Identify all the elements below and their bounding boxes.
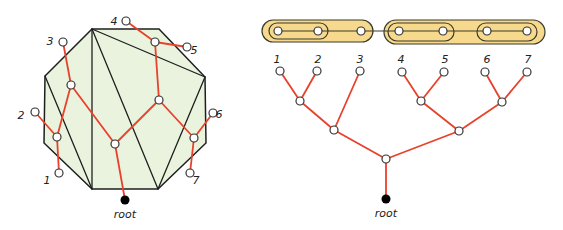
internal-node xyxy=(382,155,390,163)
internal-node xyxy=(455,127,463,135)
internal-node xyxy=(330,126,338,134)
leaf-node xyxy=(523,68,531,76)
leaf-label: 3 xyxy=(357,53,364,66)
chain-node xyxy=(274,27,282,35)
internal-node xyxy=(111,140,119,148)
leaf-label: 1 xyxy=(274,53,281,66)
tree-edge xyxy=(421,101,459,131)
leaf-label: 5 xyxy=(442,53,449,66)
chain-node xyxy=(395,27,403,35)
tree-edge xyxy=(502,72,527,102)
leaf-label: 7 xyxy=(525,53,532,66)
tree-edge xyxy=(485,72,502,102)
root-node xyxy=(121,196,130,205)
leaf-label: 4 xyxy=(111,15,118,28)
internal-node xyxy=(498,98,506,106)
internal-node xyxy=(417,97,425,105)
leaf-node xyxy=(31,108,39,116)
leaf-node xyxy=(276,67,284,75)
diagram-canvas: 1234567root 1234567root xyxy=(0,0,563,230)
leaf-node xyxy=(440,68,448,76)
root-node xyxy=(382,195,391,204)
leaf-node xyxy=(481,68,489,76)
tree-edge xyxy=(386,131,459,159)
leaf-node xyxy=(122,17,130,25)
internal-node xyxy=(151,38,159,46)
leaf-label: 4 xyxy=(398,53,405,66)
tree-edge xyxy=(334,71,360,130)
leaf-label: 3 xyxy=(47,35,54,48)
chain-node xyxy=(357,27,365,35)
binary-tree-diagram: 1234567root xyxy=(262,20,545,220)
tree-edge xyxy=(300,101,334,130)
tree-edge xyxy=(402,72,421,101)
leaf-label: 2 xyxy=(18,109,25,122)
tree-edge xyxy=(280,71,300,101)
leaf-label: 5 xyxy=(191,44,198,57)
tree-edge xyxy=(300,71,317,101)
polygon-triangulation-diagram: 1234567root xyxy=(18,15,223,221)
chain-node xyxy=(314,27,322,35)
tree-edge xyxy=(421,72,444,101)
leaf-node xyxy=(55,169,63,177)
leaf-node xyxy=(356,67,364,75)
leaf-label: 7 xyxy=(193,174,200,187)
chain-node xyxy=(439,27,447,35)
leaf-node xyxy=(59,38,67,46)
tree-edge xyxy=(334,130,386,159)
internal-node xyxy=(155,96,163,104)
root-label: root xyxy=(114,208,137,221)
leaf-label: 1 xyxy=(44,174,51,187)
tree-edge xyxy=(459,102,502,131)
leaf-label: 6 xyxy=(216,108,223,121)
chain-node xyxy=(523,27,531,35)
internal-node xyxy=(53,133,61,141)
leaf-node xyxy=(313,67,321,75)
leaf-node xyxy=(398,68,406,76)
leaf-label: 2 xyxy=(315,53,322,66)
internal-node xyxy=(296,97,304,105)
leaf-label: 6 xyxy=(484,53,491,66)
root-label: root xyxy=(375,207,398,220)
internal-node xyxy=(67,81,75,89)
internal-node xyxy=(190,134,198,142)
chain-node xyxy=(483,27,491,35)
